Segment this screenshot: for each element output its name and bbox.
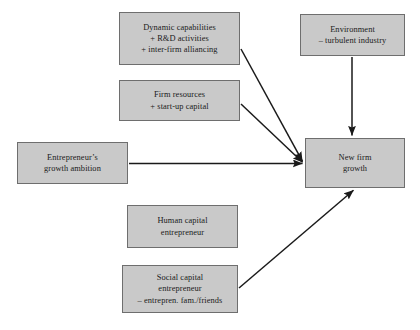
node-human-capital-line-1: Human capital: [157, 215, 207, 226]
arrow-dynamic-capabilities-to-growth: [241, 49, 303, 161]
node-entrepreneur-ambition-line-2: growth ambition: [44, 163, 101, 174]
node-new-firm-growth-line-2: growth: [343, 163, 367, 174]
node-dynamic-capabilities-line-1: Dynamic capabilities: [143, 22, 216, 33]
node-dynamic-capabilities[interactable]: Dynamic capabilities + R&D activities + …: [119, 12, 240, 65]
node-firm-resources-line-1: Firm resources: [154, 89, 205, 100]
arrow-social-capital-to-growth: [239, 190, 354, 288]
diagram-canvas: Dynamic capabilities + R&D activities + …: [0, 0, 420, 330]
node-human-capital-line-2: entrepreneur: [161, 227, 204, 238]
node-social-capital-line-1: Social capital: [157, 272, 204, 283]
node-social-capital[interactable]: Social capital entrepreneur – entrepren.…: [122, 265, 238, 313]
node-social-capital-line-3: – entrepren. fam./friends: [138, 295, 223, 306]
node-firm-resources[interactable]: Firm resources + start-up capital: [119, 80, 240, 121]
node-human-capital[interactable]: Human capital entrepreneur: [127, 205, 238, 248]
node-environment-line-2: – turbulent industry: [319, 35, 387, 46]
node-social-capital-line-2: entrepreneur: [158, 283, 201, 294]
node-dynamic-capabilities-line-2: + R&D activities: [150, 33, 209, 44]
node-new-firm-growth[interactable]: New firm growth: [305, 138, 405, 188]
node-new-firm-growth-line-1: New firm: [339, 152, 372, 163]
node-entrepreneur-ambition[interactable]: Entrepreneur’s growth ambition: [17, 142, 128, 184]
node-entrepreneur-ambition-line-1: Entrepreneur’s: [47, 152, 98, 163]
node-firm-resources-line-2: + start-up capital: [150, 101, 208, 112]
node-environment-line-1: Environment: [330, 24, 375, 35]
node-environment[interactable]: Environment – turbulent industry: [300, 14, 405, 56]
arrow-firm-resources-to-growth: [241, 104, 303, 162]
node-dynamic-capabilities-line-3: + inter-firm alliancing: [141, 44, 217, 55]
